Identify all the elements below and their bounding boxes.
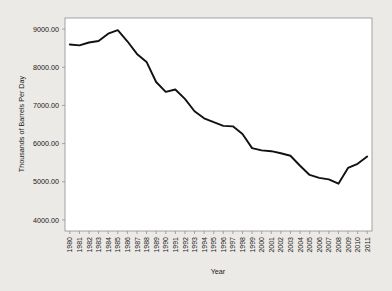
x-tick-label: 1994 [201,237,208,253]
x-tick-label: 1990 [162,237,169,253]
x-tick-label: 2000 [258,237,265,253]
x-tick-label: 2006 [316,237,323,253]
x-tick-label: 1985 [114,237,121,253]
y-tick-label: 9000.00 [33,25,59,34]
y-tick-label: 7000.00 [33,101,59,110]
x-tick-label: 2004 [297,237,304,253]
x-tick-label: 2001 [268,237,275,253]
x-tick-label: 1988 [143,237,150,253]
x-tick-label: 1982 [86,237,93,253]
y-axis-ticks: 4000.005000.006000.007000.008000.009000.… [33,25,65,225]
x-tick-label: 2007 [325,237,332,253]
x-tick-label: 1986 [124,237,131,253]
x-tick-label: 2008 [335,237,342,253]
y-tick-label: 5000.00 [33,177,59,186]
x-tick-label: 1991 [172,237,179,253]
x-tick-label: 1993 [191,237,198,253]
x-tick-label: 2002 [277,237,284,253]
x-tick-label: 1999 [249,237,256,253]
x-tick-label: 1981 [76,237,83,253]
y-tick-label: 8000.00 [33,63,59,72]
x-tick-label: 1987 [134,237,141,253]
x-tick-label: 2010 [354,237,361,253]
x-tick-label: 1998 [239,237,246,253]
x-tick-label: 2011 [364,237,371,252]
line-chart: 4000.005000.006000.007000.008000.009000.… [0,0,392,291]
x-tick-label: 1980 [66,237,73,253]
x-tick-label: 1996 [220,237,227,253]
y-axis-title: Thousands of Barrels Per Day [17,75,26,172]
x-tick-label: 2009 [345,237,352,253]
x-tick-label: 1989 [153,237,160,253]
y-tick-label: 6000.00 [33,139,59,148]
x-tick-label: 1992 [182,237,189,253]
x-tick-label: 2003 [287,237,294,253]
x-tick-label: 1984 [105,237,112,253]
x-tick-label: 2005 [306,237,313,253]
x-axis-title: Year [211,267,226,276]
chart-figure: 4000.005000.006000.007000.008000.009000.… [0,0,392,291]
x-tick-label: 1995 [210,237,217,253]
x-axis-ticks: 1980198119821983198419851986198719881989… [66,231,370,253]
x-tick-label: 1983 [95,237,102,253]
y-tick-label: 4000.00 [33,216,59,225]
x-tick-label: 1997 [229,237,236,253]
